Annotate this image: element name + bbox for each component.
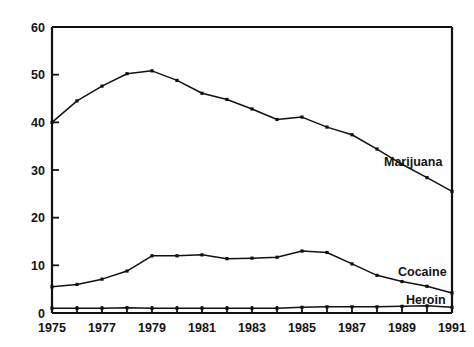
data-point bbox=[275, 256, 278, 259]
y-tick-label: 60 bbox=[31, 21, 45, 35]
data-point bbox=[175, 79, 178, 82]
x-tick-label: 1977 bbox=[88, 321, 116, 335]
data-point bbox=[100, 307, 103, 310]
chart-background bbox=[0, 0, 474, 347]
x-tick-label: 1975 bbox=[38, 321, 66, 335]
data-point bbox=[400, 305, 403, 308]
data-point bbox=[50, 307, 53, 310]
data-point bbox=[375, 274, 378, 277]
x-tick-label: 1979 bbox=[138, 321, 166, 335]
data-point bbox=[125, 306, 128, 309]
data-point bbox=[250, 257, 253, 260]
y-tick-label: 20 bbox=[31, 211, 45, 225]
y-tick-label: 50 bbox=[31, 68, 45, 82]
data-point bbox=[150, 254, 153, 257]
data-point bbox=[425, 285, 428, 288]
data-point bbox=[175, 307, 178, 310]
data-point bbox=[225, 257, 228, 260]
data-point bbox=[325, 251, 328, 254]
data-point bbox=[400, 280, 403, 283]
x-tick-label: 1989 bbox=[388, 321, 416, 335]
line-chart: 0102030405060 19751977197919811983198519… bbox=[0, 0, 474, 347]
data-point bbox=[300, 306, 303, 309]
y-tick-label: 30 bbox=[31, 164, 45, 178]
data-point bbox=[450, 291, 453, 294]
data-point bbox=[450, 190, 453, 193]
series-label-marijuana: Marijuana bbox=[384, 155, 443, 169]
data-point bbox=[125, 72, 128, 75]
data-point bbox=[375, 147, 378, 150]
x-tick-label: 1985 bbox=[288, 321, 316, 335]
data-point bbox=[225, 98, 228, 101]
data-point bbox=[100, 278, 103, 281]
x-axis-tick-labels: 197519771979198119831985198719891991 bbox=[38, 321, 466, 335]
series-label-heroin: Heroin bbox=[406, 293, 446, 307]
x-tick-label: 1987 bbox=[338, 321, 366, 335]
series-label-cocaine: Cocaine bbox=[398, 265, 447, 279]
data-point bbox=[200, 92, 203, 95]
chart-screen: 0102030405060 19751977197919811983198519… bbox=[0, 0, 474, 347]
data-point bbox=[175, 254, 178, 257]
data-point bbox=[75, 307, 78, 310]
y-tick-label: 0 bbox=[38, 307, 45, 321]
data-point bbox=[325, 126, 328, 129]
y-tick-label: 10 bbox=[31, 259, 45, 273]
data-point bbox=[350, 133, 353, 136]
data-point bbox=[375, 305, 378, 308]
data-point bbox=[300, 115, 303, 118]
data-point bbox=[75, 283, 78, 286]
data-point bbox=[425, 176, 428, 179]
x-tick-label: 1991 bbox=[438, 321, 466, 335]
data-point bbox=[300, 249, 303, 252]
data-point bbox=[200, 253, 203, 256]
data-point bbox=[450, 306, 453, 309]
x-tick-label: 1983 bbox=[238, 321, 266, 335]
data-point bbox=[350, 262, 353, 265]
data-point bbox=[150, 69, 153, 72]
data-point bbox=[50, 285, 53, 288]
data-point bbox=[150, 307, 153, 310]
data-point bbox=[275, 307, 278, 310]
y-tick-label: 40 bbox=[31, 116, 45, 130]
data-point bbox=[200, 307, 203, 310]
data-point bbox=[350, 305, 353, 308]
data-point bbox=[250, 307, 253, 310]
data-point bbox=[75, 99, 78, 102]
x-tick-label: 1981 bbox=[188, 321, 216, 335]
data-point bbox=[125, 269, 128, 272]
data-point bbox=[275, 118, 278, 121]
data-point bbox=[250, 107, 253, 110]
data-point bbox=[225, 307, 228, 310]
data-point bbox=[100, 85, 103, 88]
data-point bbox=[50, 121, 53, 124]
data-point bbox=[325, 305, 328, 308]
